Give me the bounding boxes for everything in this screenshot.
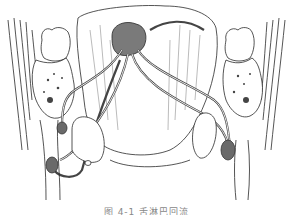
tumor	[112, 23, 146, 56]
right-mandible	[223, 58, 263, 117]
right-jugular-vein	[235, 140, 250, 200]
small-node	[85, 161, 91, 166]
left-lower-node	[46, 157, 58, 173]
right-submandibular-gland	[193, 113, 217, 158]
right-tooth	[225, 28, 254, 61]
right-node	[221, 140, 235, 160]
mouth-floor	[110, 160, 190, 167]
left-upper-node	[57, 122, 67, 134]
left-tooth	[41, 28, 70, 61]
left-mandible	[32, 58, 74, 118]
figure-caption: 图 4-1 舌淋巴回流	[0, 206, 293, 215]
right-cheek-tissue	[261, 18, 285, 150]
anatomical-illustration	[0, 0, 293, 200]
left-submandibular-gland	[72, 117, 104, 163]
